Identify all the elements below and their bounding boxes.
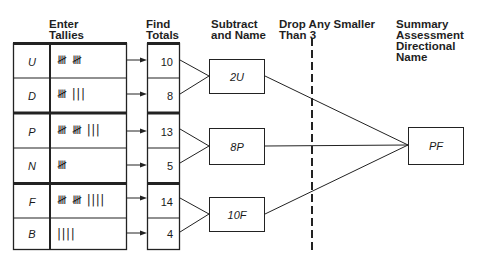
row-total-p: 13 (148, 115, 180, 148)
row-tally-u: 𝍸 𝍸 (51, 45, 126, 78)
row-tally-p: 𝍸 𝍸 ||| (51, 115, 126, 148)
row-total-d: 8 (148, 79, 180, 112)
row-letter-n: N (14, 149, 50, 183)
row-tally-b: |||| (51, 219, 126, 249)
row-tally-f: 𝍸 𝍸 |||| (51, 185, 126, 218)
row-letter-p: P (14, 115, 50, 148)
row-letter-b: B (14, 219, 50, 249)
row-letter-f: F (14, 185, 50, 218)
row-total-b: 4 (148, 219, 180, 249)
summary-result-box: PF (408, 127, 464, 165)
row-total-n: 5 (148, 149, 180, 183)
difference-box-pn: 8P (209, 128, 265, 165)
difference-box-fb: 10F (209, 197, 265, 232)
row-tally-n: 𝍸 (51, 149, 126, 183)
row-tally-d: 𝍸 ||| (51, 79, 126, 112)
difference-box-ud: 2U (209, 59, 265, 94)
row-letter-d: D (14, 79, 50, 112)
row-letter-u: U (14, 45, 50, 78)
row-total-u: 10 (148, 45, 180, 78)
row-total-f: 14 (148, 185, 180, 218)
